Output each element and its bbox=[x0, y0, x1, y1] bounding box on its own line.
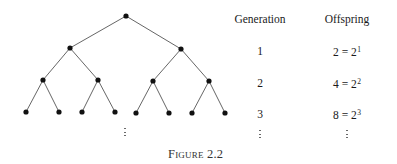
tree-edge bbox=[181, 49, 209, 81]
tree-node bbox=[23, 109, 28, 114]
tree-node bbox=[189, 110, 194, 115]
tree-edge bbox=[82, 80, 98, 112]
tree-node bbox=[40, 77, 45, 82]
tree-edge bbox=[70, 48, 98, 80]
tree-nodes bbox=[23, 13, 227, 115]
tree-node bbox=[79, 109, 84, 114]
offspring-row-1-exponent: 1 bbox=[357, 45, 361, 54]
tree-edge bbox=[153, 81, 169, 113]
generation-row-2: 2 bbox=[257, 78, 263, 90]
generation-continuation-dots bbox=[259, 130, 261, 141]
tree-continuation-dots bbox=[124, 128, 126, 139]
tree-node bbox=[123, 13, 128, 18]
tree-edge bbox=[43, 48, 70, 80]
tree-node bbox=[166, 110, 171, 115]
tree-node bbox=[133, 110, 138, 115]
tree-edge bbox=[209, 81, 225, 113]
tree-node bbox=[150, 78, 155, 83]
binary-tree-diagram bbox=[0, 0, 240, 164]
offspring-continuation-dots bbox=[346, 130, 348, 141]
offspring-row-3: 8 = 23 bbox=[333, 109, 361, 122]
tree-edge bbox=[98, 80, 115, 112]
generation-header: Generation bbox=[234, 14, 285, 26]
generation-row-1: 1 bbox=[257, 46, 263, 58]
tree-edge bbox=[136, 81, 153, 113]
tree-edge bbox=[153, 49, 181, 81]
tree-edge bbox=[70, 16, 126, 48]
tree-node bbox=[56, 109, 61, 114]
offspring-header: Offspring bbox=[325, 14, 370, 26]
figure-caption: Figure 2.2 bbox=[168, 147, 223, 162]
offspring-row-2-exponent: 2 bbox=[357, 77, 361, 86]
tree-node bbox=[222, 110, 227, 115]
offspring-row-3-base: 8 = 2 bbox=[333, 109, 357, 121]
offspring-row-1-base: 2 = 2 bbox=[333, 46, 357, 58]
tree-edge bbox=[126, 16, 181, 49]
tree-edges bbox=[26, 16, 225, 113]
tree-node bbox=[95, 77, 100, 82]
tree-edge bbox=[26, 80, 43, 112]
offspring-row-2: 4 = 22 bbox=[333, 78, 361, 91]
offspring-row-2-base: 4 = 2 bbox=[333, 78, 357, 90]
tree-node bbox=[206, 78, 211, 83]
tree-node bbox=[67, 45, 72, 50]
offspring-row-1: 2 = 21 bbox=[333, 46, 361, 59]
offspring-row-3-exponent: 3 bbox=[357, 108, 361, 117]
tree-node bbox=[112, 109, 117, 114]
generation-row-3: 3 bbox=[257, 109, 263, 121]
tree-edge bbox=[192, 81, 209, 113]
tree-node bbox=[178, 46, 183, 51]
tree-edge bbox=[43, 80, 59, 112]
